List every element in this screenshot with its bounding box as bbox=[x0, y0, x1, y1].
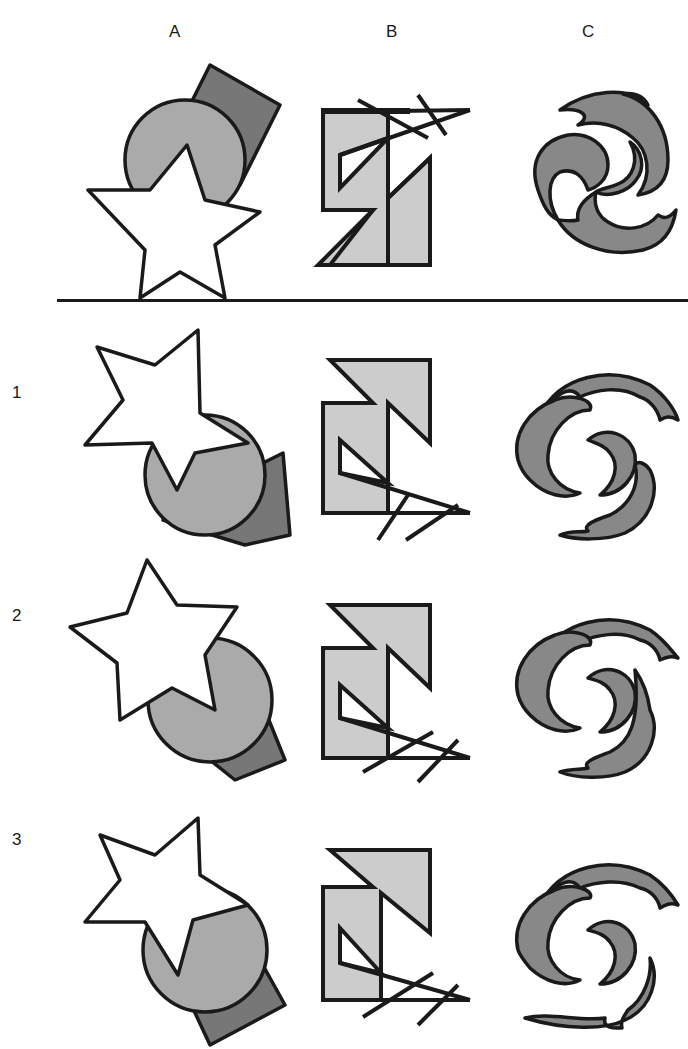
figure-c-option-1 bbox=[510, 355, 680, 545]
swirl-arm-bottom bbox=[558, 192, 676, 252]
cross-line-2 bbox=[406, 505, 458, 540]
top-line bbox=[323, 110, 470, 112]
swirl-core bbox=[588, 922, 635, 984]
z-shape bbox=[318, 112, 388, 265]
swirl-arm-left bbox=[517, 887, 591, 984]
figure-b-reference bbox=[318, 100, 478, 270]
star-shape bbox=[70, 560, 237, 720]
column-label-b: B bbox=[386, 22, 397, 42]
swirl-core bbox=[588, 670, 635, 732]
figure-b-option-1 bbox=[318, 355, 478, 525]
swirl-core bbox=[588, 432, 635, 495]
column-label-a: A bbox=[169, 22, 180, 42]
row-label-1: 1 bbox=[12, 383, 21, 403]
figure-c-option-3 bbox=[510, 850, 680, 1049]
figure-b-option-2 bbox=[318, 600, 478, 770]
figure-a-reference bbox=[70, 60, 270, 300]
figure-a-option-3 bbox=[80, 810, 290, 1049]
z-shape-lower bbox=[388, 158, 430, 265]
row-label-2: 2 bbox=[12, 606, 21, 626]
swirl-arm-right bbox=[560, 463, 654, 539]
cross-line-2 bbox=[418, 95, 446, 135]
row-label-3: 3 bbox=[12, 830, 21, 850]
figure-c-reference bbox=[518, 80, 678, 280]
figure-a-option-1 bbox=[80, 325, 290, 555]
figure-a-option-2 bbox=[65, 555, 295, 780]
figure-c-option-2 bbox=[510, 600, 680, 790]
swirl-arm-left bbox=[517, 632, 591, 731]
swirl-arm-left bbox=[517, 397, 591, 496]
column-label-c: C bbox=[582, 22, 594, 42]
figure-b-option-3 bbox=[318, 845, 478, 1015]
